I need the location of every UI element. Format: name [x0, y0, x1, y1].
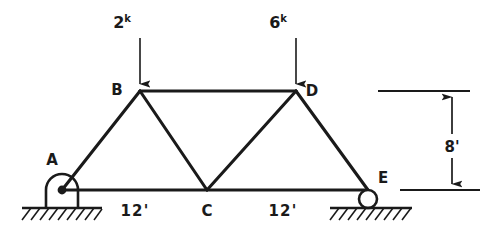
truss-members [62, 91, 368, 190]
truss-diagram: 2k 6k A B C D E 12' 12' 8' [0, 0, 488, 251]
member-A-B [62, 91, 140, 190]
joint-label-A: A [46, 151, 58, 169]
roller-support-E [330, 190, 412, 220]
dimension-label-span-right: 12' [268, 202, 297, 220]
member-D-E [296, 91, 368, 190]
dimension-label-span-left: 12' [120, 202, 149, 220]
member-C-D [207, 91, 296, 190]
joint-label-D: D [306, 82, 318, 100]
pin-pivot-dot [58, 186, 67, 195]
roller-ground-hatching [330, 208, 411, 220]
load-label-B: 2k [113, 13, 131, 32]
roller-circle [359, 190, 377, 208]
joint-label-B: B [111, 81, 122, 99]
joint-label-C: C [201, 202, 212, 220]
pin-support-A [22, 174, 102, 220]
pin-ground-hatching [22, 208, 102, 220]
dimension-label-height: 8' [444, 138, 459, 156]
load-label-D: 6k [269, 13, 287, 32]
member-B-C [140, 91, 207, 190]
height-dimension: 8' [378, 91, 480, 190]
joint-label-E: E [378, 169, 388, 187]
